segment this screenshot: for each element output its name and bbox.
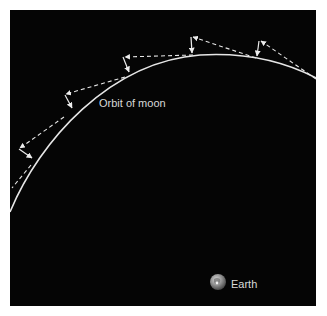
orbit-label: Orbit of moon — [99, 97, 166, 109]
earth-label: Earth — [231, 278, 257, 290]
moon-orbit-arc — [10, 55, 318, 212]
orbit-diagram — [0, 0, 327, 316]
tangent-velocity-arrows — [12, 37, 316, 188]
earth-icon — [210, 274, 226, 290]
